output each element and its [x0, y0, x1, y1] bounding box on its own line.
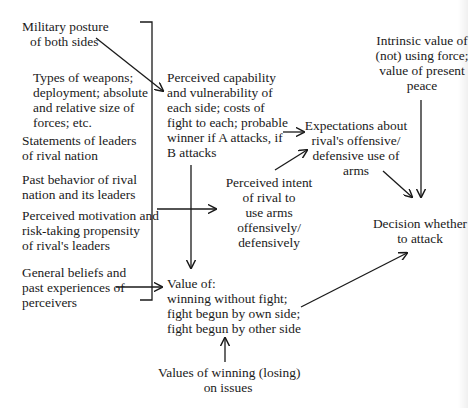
node-values-of-winning: Values of winning (losing) on issues [158, 365, 298, 395]
input-military-posture: Military posture of both sides [22, 19, 109, 49]
input-bracket [140, 22, 152, 300]
node-intrinsic-value: Intrinsic value of (not) using force; va… [370, 33, 473, 93]
input-statements: Statements of leaders of rival nation [22, 133, 137, 163]
input-weapons: Types of weapons; deployment; absolute a… [33, 70, 148, 130]
node-perceived-capability: Perceived capability and vulnerability o… [167, 70, 288, 160]
input-beliefs: General beliefs and past experiences of … [22, 265, 126, 310]
node-value-of: Value of: winning without fight; fight b… [167, 276, 301, 336]
arrow-value-to-decision [301, 253, 407, 307]
input-past-behavior: Past behavior of rival nation and its le… [22, 172, 137, 202]
node-decision: Decision whether to attack [368, 216, 472, 246]
input-motivation: Perceived motivation and risk-taking pro… [22, 208, 159, 253]
node-perceived-intent: Perceived intent of rival to use arms of… [212, 175, 326, 250]
node-expectations: Expectations about rival's offensive/ de… [300, 118, 412, 178]
